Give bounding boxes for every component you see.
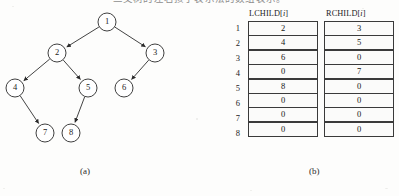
panel-b-label: (b) [309, 166, 320, 176]
node-label-1: 1 [105, 16, 109, 26]
scan-speckle-3 [12, 6, 14, 7]
lchild-cell-2: 4 [248, 35, 318, 50]
tree-edge-2-4 [24, 59, 50, 81]
rchild-cell-6: 0 [324, 93, 394, 108]
lchild-header-bracket: ] [285, 9, 288, 18]
tree-node-5: 5 [79, 79, 97, 97]
tree-edge-1-2 [67, 27, 99, 47]
scan-speckle-0 [3, 188, 5, 189]
tree-node-8: 8 [62, 124, 80, 142]
panel-b-array-table: LCHILD[i] RCHILD[i] 12345678 24608000 35… [200, 0, 399, 196]
lchild-cell-3: 6 [248, 50, 318, 65]
node-label-6: 6 [122, 82, 126, 92]
lchild-cell-8: 0 [248, 122, 318, 137]
node-label-7: 7 [43, 127, 47, 137]
rchild-header-text: RCHILD[ [326, 9, 360, 18]
tree-node-2: 2 [48, 44, 66, 62]
row-index-1: 1 [228, 21, 240, 36]
row-index-7: 7 [228, 111, 240, 126]
row-index-6: 6 [228, 96, 240, 111]
scan-speckle-5 [250, 190, 252, 191]
lchild-cell-7: 0 [248, 107, 318, 122]
panel-a-label: (a) [80, 166, 90, 176]
rchild-cell-7: 0 [324, 107, 394, 122]
figure-canvas: 二叉树的左右孩子表示法的数组表示。 12345678 (a) LCHILD[i]… [0, 0, 399, 196]
tree-edge-4-7 [20, 96, 38, 124]
tree-node-1: 1 [98, 13, 116, 31]
panel-a-binary-tree: 12345678 (a) [0, 0, 200, 196]
row-index-4: 4 [228, 66, 240, 81]
tree-graph: 12345678 [0, 0, 200, 196]
lchild-column-header: LCHILD[i] [249, 9, 288, 18]
row-index-3: 3 [228, 51, 240, 66]
rchild-cell-2: 5 [324, 35, 394, 50]
tree-node-6: 6 [115, 79, 133, 97]
row-index-2: 2 [228, 36, 240, 51]
row-index-8: 8 [228, 126, 240, 141]
rchild-cell-1: 3 [324, 21, 394, 36]
tree-node-3: 3 [146, 44, 164, 62]
tree-edge-3-6 [132, 60, 149, 79]
rchild-cells: 35070000 [324, 21, 394, 136]
rchild-cell-5: 0 [324, 79, 394, 94]
tree-node-4: 4 [6, 79, 24, 97]
tree-node-7: 7 [36, 124, 54, 142]
scan-speckle-2 [385, 188, 388, 189]
row-index-column: 12345678 [228, 21, 240, 141]
rchild-cell-3: 0 [324, 50, 394, 65]
node-label-5: 5 [86, 82, 90, 92]
row-index-5: 5 [228, 81, 240, 96]
rchild-cell-4: 7 [324, 64, 394, 79]
rchild-header-bracket: ] [363, 9, 366, 18]
node-label-8: 8 [69, 127, 73, 137]
tree-nodes: 12345678 [6, 13, 164, 142]
node-label-3: 3 [153, 47, 157, 57]
lchild-cell-6: 0 [248, 93, 318, 108]
scan-speckle-1 [196, 118, 198, 120]
rchild-cell-8: 0 [324, 122, 394, 137]
lchild-header-text: LCHILD[ [249, 9, 283, 18]
node-label-2: 2 [55, 47, 59, 57]
tree-edges [20, 27, 148, 123]
lchild-cells: 24608000 [248, 21, 318, 136]
lchild-cell-4: 0 [248, 64, 318, 79]
tree-edge-5-8 [75, 97, 85, 122]
scan-speckle-4 [362, 8, 364, 9]
tree-edge-2-5 [63, 60, 80, 79]
lchild-cell-5: 8 [248, 79, 318, 94]
tree-edge-1-3 [115, 27, 145, 47]
rchild-column-header: RCHILD[i] [326, 9, 366, 18]
lchild-cell-1: 2 [248, 21, 318, 36]
